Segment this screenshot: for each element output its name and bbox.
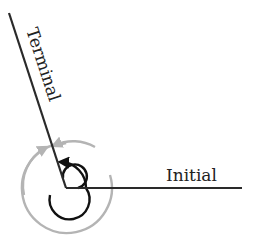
initial-label: Initial bbox=[166, 165, 217, 185]
angle-diagram: Initial Terminal bbox=[0, 0, 256, 243]
terminal-label: Terminal bbox=[22, 25, 65, 104]
inner-rotation-spiral bbox=[44, 162, 90, 219]
